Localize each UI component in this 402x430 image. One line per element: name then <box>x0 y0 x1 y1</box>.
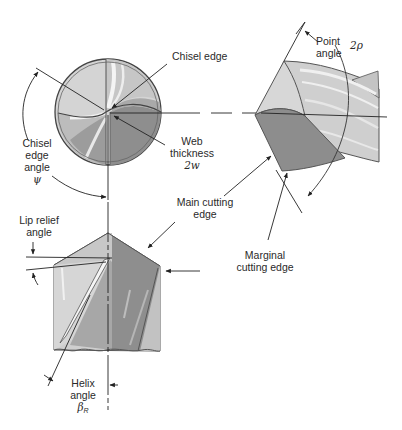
drill-helix-view <box>54 233 160 351</box>
label-chisel-edge-angle-line3: angle <box>20 161 54 173</box>
label-marginal-cutting-edge: Marginal cutting edge <box>227 249 303 273</box>
label-main-cutting-edge-line2: edge <box>170 208 240 220</box>
label-chisel-edge: Chisel edge <box>172 50 227 62</box>
label-point-angle: Point angle <box>316 35 342 59</box>
label-helix-angle-subscript: R <box>84 407 89 414</box>
label-point-angle-line2: angle <box>316 47 342 59</box>
label-web-thickness-line2: thickness <box>162 147 222 159</box>
label-main-cutting-edge-line1: Main cutting <box>170 196 240 208</box>
label-point-angle-symbol: 2ρ <box>350 39 363 51</box>
drill-point-view <box>255 45 379 196</box>
label-marginal-cutting-edge-line1: Marginal <box>227 249 303 261</box>
label-web-thickness-symbol: 2w <box>162 159 222 171</box>
label-web-thickness: Web thickness 2w <box>162 135 222 171</box>
label-chisel-edge-angle-line1: Chisel <box>20 137 54 149</box>
label-lip-relief-angle-line1: Lip relief <box>14 214 64 226</box>
label-chisel-edge-angle-line2: edge <box>20 149 54 161</box>
label-helix-angle-line2: angle <box>66 389 100 401</box>
label-lip-relief-angle: Lip relief angle <box>14 214 64 238</box>
label-helix-angle-line1: Helix <box>66 377 100 389</box>
label-lip-relief-angle-line2: angle <box>14 226 64 238</box>
label-main-cutting-edge: Main cutting edge <box>170 196 240 220</box>
label-chisel-edge-angle-symbol: ψ <box>20 173 54 185</box>
label-helix-angle: Helix angle βR <box>66 377 100 417</box>
label-point-angle-line1: Point <box>316 35 342 47</box>
label-marginal-cutting-edge-line2: cutting edge <box>227 261 303 273</box>
label-web-thickness-line1: Web <box>162 135 222 147</box>
label-helix-angle-symbol-wrap: βR <box>66 401 100 417</box>
label-chisel-edge-angle: Chisel edge angle ψ <box>20 137 54 185</box>
